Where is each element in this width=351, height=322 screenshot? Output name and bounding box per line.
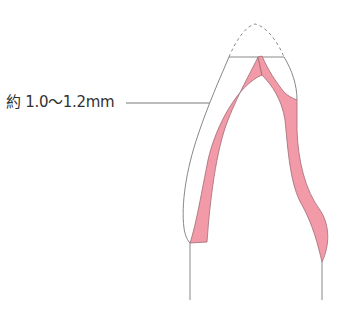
tooth-cross-section-diagram: [0, 0, 351, 322]
lingual-reduction-band: [258, 56, 328, 262]
labial-reduction-band: [190, 57, 262, 243]
original-tip-dashed-outline: [229, 24, 284, 57]
